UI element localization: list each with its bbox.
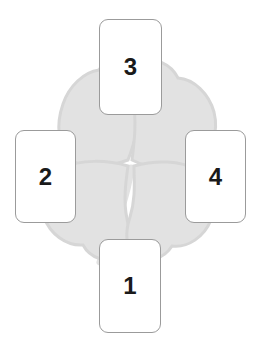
card-number-label: 4 [209,165,222,189]
card-number-label: 3 [124,55,137,79]
card-number-label: 2 [39,165,52,189]
card-spread-canvas: 3 2 4 1 [0,0,262,353]
spread-card-top[interactable]: 3 [99,19,162,115]
card-number-label: 1 [123,274,136,298]
spread-card-right[interactable]: 4 [185,130,246,223]
spread-card-bottom[interactable]: 1 [99,239,161,333]
spread-card-left[interactable]: 2 [15,130,76,223]
